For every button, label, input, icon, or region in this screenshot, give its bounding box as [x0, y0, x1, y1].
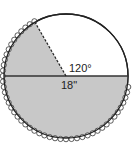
- circle-sector-diagram: 120° 18": [0, 0, 134, 149]
- angle-label: 120°: [69, 62, 92, 74]
- diameter-label: 18": [61, 79, 77, 91]
